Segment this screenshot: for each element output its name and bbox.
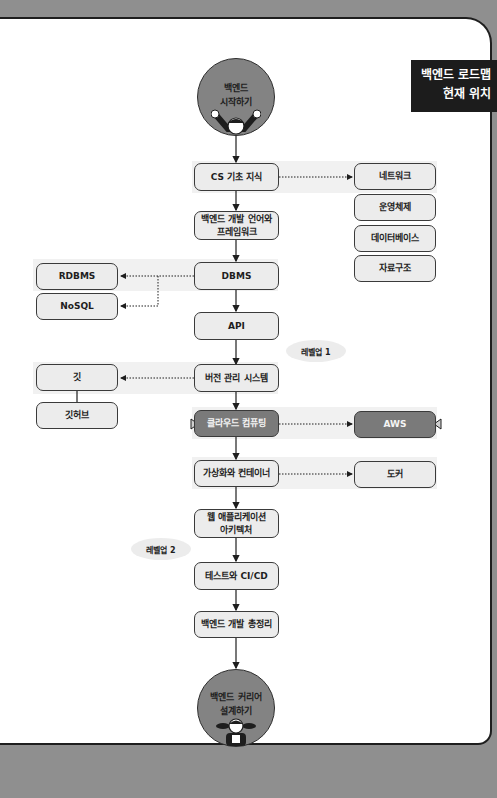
step-version-control[interactable]: 버전 관리 시스템	[194, 364, 279, 392]
step-virtualization-containers[interactable]: 가상화와 컨테이너	[194, 460, 279, 487]
topic-docker[interactable]: 도커	[354, 461, 436, 488]
topic-git[interactable]: 깃	[36, 364, 118, 391]
topic-nosql[interactable]: NoSQL	[36, 293, 118, 320]
topic-aws[interactable]: AWS	[354, 411, 436, 438]
end-node[interactable]: 백엔드 커리어설계하기	[197, 669, 275, 747]
step-api[interactable]: API	[194, 312, 279, 340]
step-backend-summary[interactable]: 백엔드 개발 총정리	[194, 611, 279, 638]
topic-network[interactable]: 네트워크	[354, 163, 436, 190]
level-up-2-badge: 레벨업 2	[131, 538, 191, 560]
topic-rdbms[interactable]: RDBMS	[36, 263, 118, 290]
topic-database[interactable]: 데이터베이스	[354, 225, 436, 252]
topic-github[interactable]: 깃허브	[36, 402, 118, 429]
cheering-character-icon	[211, 109, 261, 135]
topic-data-structure[interactable]: 자료구조	[354, 255, 436, 282]
step-cloud-computing[interactable]: 클라우드 컴퓨팅	[194, 410, 279, 437]
start-node[interactable]: 백엔드시작하기	[197, 58, 275, 136]
step-testing-cicd[interactable]: 테스트와 CI/CD	[194, 562, 279, 590]
level-up-1-badge: 레벨업 1	[286, 340, 346, 362]
current-position-tag: 백엔드 로드맵 현재 위치	[411, 60, 497, 112]
thumbs-up-character-icon	[211, 718, 261, 746]
step-backend-language-framework[interactable]: 백엔드 개발 언어와프레임워크	[194, 211, 279, 240]
step-dbms[interactable]: DBMS	[194, 262, 279, 290]
topic-operating-system[interactable]: 운영체제	[354, 194, 436, 221]
step-cs-basics[interactable]: CS 기초 지식	[194, 163, 279, 191]
step-web-architecture[interactable]: 웹 애플리케이션아키텍처	[194, 509, 279, 538]
